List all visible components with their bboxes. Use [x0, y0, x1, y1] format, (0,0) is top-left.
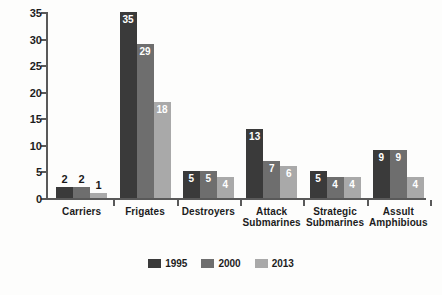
legend-label: 2013 [272, 258, 294, 269]
bar-value-label: 29 [137, 47, 154, 57]
bar-group: 994 [369, 150, 427, 198]
bar-value-label: 6 [280, 169, 297, 179]
bar-value-label: 2 [56, 174, 73, 185]
bar: 2 [56, 187, 73, 198]
bar-group: 221 [53, 187, 111, 198]
bar: 9 [390, 150, 407, 198]
bar-value-label: 1 [90, 180, 107, 191]
category-label-line: Amphibious [353, 217, 442, 228]
bar-value-label: 4 [407, 180, 424, 190]
legend-item: 2000 [201, 258, 240, 269]
y-axis-tick-label: 10 [30, 140, 42, 152]
bar: 35 [120, 12, 137, 198]
legend-swatch [201, 259, 214, 268]
y-axis-tick-label: 30 [30, 34, 42, 46]
bar: 1 [90, 193, 107, 198]
y-axis-line [46, 12, 48, 200]
bar: 6 [280, 166, 297, 198]
bar: 13 [246, 129, 263, 198]
y-axis-tick-label: 35 [30, 7, 42, 19]
y-axis-tick-label: 5 [36, 166, 42, 178]
bar-value-label: 7 [263, 164, 280, 174]
y-axis-tick-label: 25 [30, 60, 42, 72]
bar-value-label: 9 [390, 153, 407, 163]
bar-value-label: 4 [344, 180, 361, 190]
bar-group: 554 [179, 171, 237, 198]
legend-swatch [148, 259, 161, 268]
y-axis-tick-label: 15 [30, 113, 42, 125]
bar-value-label: 4 [327, 180, 344, 190]
y-axis-tick-label: 20 [30, 87, 42, 99]
bar-chart: 05101520253035 2213529185541376544994 Ca… [0, 0, 442, 295]
bar-value-label: 5 [183, 174, 200, 184]
bar-group: 544 [306, 171, 364, 198]
bar-group: 352918 [116, 12, 174, 198]
chart-legend: 199520002013 [0, 258, 442, 269]
legend-item: 2013 [255, 258, 294, 269]
bar: 5 [200, 171, 217, 198]
bar-value-label: 13 [246, 132, 263, 142]
legend-label: 2000 [218, 258, 240, 269]
bar: 2 [73, 187, 90, 198]
y-axis-tick-label: 0 [36, 193, 42, 205]
bar: 4 [344, 177, 361, 198]
bar-value-label: 5 [200, 174, 217, 184]
bar-value-label: 2 [73, 174, 90, 185]
bar: 18 [154, 102, 171, 198]
bar-value-label: 18 [154, 105, 171, 115]
legend-label: 1995 [165, 258, 187, 269]
bar-group: 1376 [243, 129, 301, 198]
category-label-line: Assult [353, 206, 442, 217]
x-axis-line [46, 198, 426, 200]
bar-value-label: 4 [217, 180, 234, 190]
legend-swatch [255, 259, 268, 268]
category-label: AssultAmphibious [353, 206, 442, 228]
bar-value-label: 9 [373, 153, 390, 163]
bar: 4 [327, 177, 344, 198]
bar: 4 [217, 177, 234, 198]
bar: 29 [137, 44, 154, 198]
plot-area: 05101520253035 2213529185541376544994 [46, 12, 426, 200]
bar-value-label: 5 [310, 174, 327, 184]
bar: 4 [407, 177, 424, 198]
bar: 7 [263, 161, 280, 198]
legend-item: 1995 [148, 258, 187, 269]
bar: 9 [373, 150, 390, 198]
bar: 5 [183, 171, 200, 198]
bar-value-label: 35 [120, 15, 137, 25]
bar: 5 [310, 171, 327, 198]
